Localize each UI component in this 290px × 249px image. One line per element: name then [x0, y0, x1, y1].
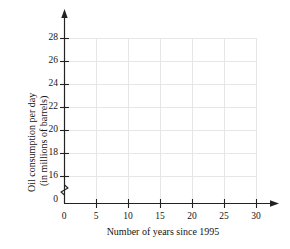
x-tick-label-5: 5 — [94, 212, 99, 222]
x-tick-label-30: 30 — [251, 212, 261, 222]
x-tick-label-20: 20 — [187, 212, 197, 222]
y-tick-label-26: 26 — [40, 56, 58, 66]
y-axis-title-line2: (in millions of barrels) — [38, 96, 49, 186]
x-tick-label-0: 0 — [62, 212, 67, 222]
chart-container: 28 26 24 22 20 18 16 0 0 5 10 15 20 25 3… — [0, 0, 290, 249]
x-tick-label-10: 10 — [123, 212, 133, 222]
x-tick-label-25: 25 — [219, 212, 229, 222]
y-tick-label-24: 24 — [40, 79, 58, 89]
y-tick-label-origin: 0 — [40, 195, 58, 205]
x-tick-label-15: 15 — [155, 212, 165, 222]
y-axis-title-line1: Oil consumption per day — [26, 93, 37, 192]
y-tick-label-28: 28 — [40, 33, 58, 43]
x-axis-title: Number of years since 1995 — [107, 226, 220, 237]
gridlines-vertical — [65, 38, 257, 203]
